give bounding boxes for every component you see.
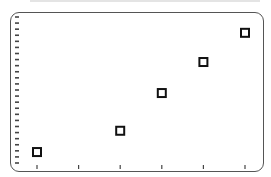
data-point-marker: [33, 148, 41, 156]
data-point-marker: [199, 58, 207, 66]
data-point-marker: [116, 127, 124, 135]
scatter-plot: [0, 0, 271, 177]
data-point-marker: [158, 89, 166, 97]
data-point-marker: [241, 29, 249, 37]
